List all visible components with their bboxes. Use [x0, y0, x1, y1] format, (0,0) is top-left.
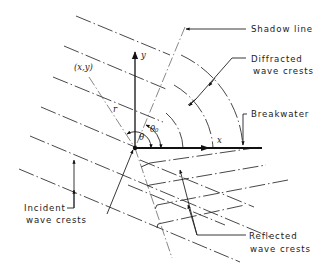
diffracted-arc-1: [174, 85, 213, 148]
origin-point: [133, 146, 137, 150]
theta0-label: θ₀: [150, 124, 159, 134]
reflected-crest-end-3: [155, 205, 157, 209]
diffracted-arc-3: [166, 113, 183, 148]
diffracted-wave-crests: [166, 55, 243, 148]
reflected-wave-crests: [141, 147, 288, 228]
reflected-crest-3: [157, 180, 288, 205]
reflected-label-line2: wave crests: [250, 244, 311, 254]
incident-direction-ray: [107, 150, 133, 214]
x-axis-arrow-icon: [201, 145, 210, 151]
reflected-leader-arrow2: [188, 205, 197, 235]
reflected-label-line1: Reflected: [249, 231, 298, 241]
diffracted-arc-2: [181, 55, 243, 148]
point-xy-label: (x,y): [74, 62, 93, 72]
incident-crest-3: [53, 77, 163, 122]
incident-label-line1: Incident: [24, 203, 66, 213]
radius-label: r: [113, 104, 118, 114]
reflected-crest-end-1: [141, 163, 150, 167]
diffracted-label-line2: wave crests: [253, 66, 314, 76]
incident-crest-8: [128, 185, 225, 225]
reflected-leader: [180, 170, 246, 235]
wave-diffraction-diagram: Shadow line Diffracted wave crests Break…: [0, 0, 329, 273]
incident-crest-4: [41, 107, 135, 147]
diffracted-leader: [188, 58, 246, 105]
x-axis-label: x: [217, 135, 222, 145]
incident-crest-1: [76, 16, 170, 55]
reflected-crest-2: [150, 165, 266, 185]
incident-label-line2: wave crests: [26, 215, 87, 225]
diffracted-leader-arrow1: [209, 78, 215, 86]
diffracted-label-line1: Diffracted: [251, 54, 303, 64]
breakwater-leader: [243, 114, 247, 145]
shadow-line-label: Shadow line: [251, 24, 313, 34]
y-axis-label: y: [140, 50, 146, 60]
breakwater-label: Breakwater: [251, 109, 309, 119]
incident-leader: [67, 160, 74, 208]
theta-label: θ: [139, 132, 144, 142]
